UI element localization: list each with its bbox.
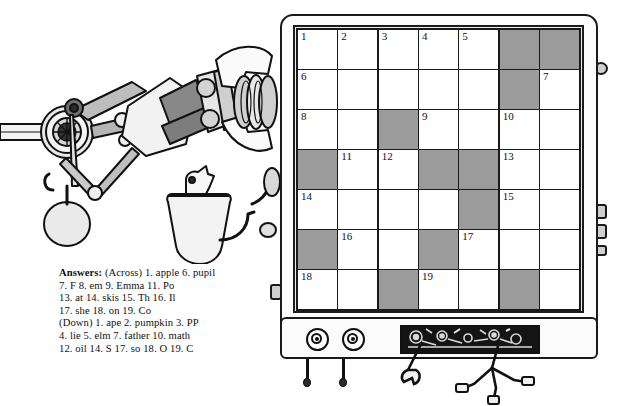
vase-body: [167, 194, 231, 264]
answers-line-5: 4. lie 5. elm 7. father 10. math: [59, 330, 271, 343]
foot-right: [339, 378, 347, 387]
cable-main: [492, 346, 498, 368]
grid-cell-number: 15: [503, 190, 514, 203]
crossword-grid[interactable]: 12345678910111213141516171819: [296, 28, 581, 311]
grid-cell[interactable]: [500, 230, 539, 269]
grid-cell[interactable]: 3: [379, 30, 418, 69]
grid-cell[interactable]: [540, 110, 579, 149]
grid-cell[interactable]: [338, 190, 377, 229]
grid-cell-number: 17: [462, 230, 473, 243]
grid-cell[interactable]: 6: [298, 70, 337, 109]
grid-cell[interactable]: [459, 70, 498, 109]
answers-line-1: 7. F 8. em 9. Emma 11. Po: [59, 280, 271, 293]
grid-cell-blocked: [500, 70, 539, 109]
control-dial-left[interactable]: [306, 328, 329, 351]
grid-cell[interactable]: 1: [298, 30, 337, 69]
grid-cell-blocked: [540, 30, 579, 69]
grid-cell[interactable]: 19: [419, 270, 458, 309]
foot-left: [303, 378, 311, 387]
grid-cell-number: 16: [341, 230, 352, 243]
grid-cell[interactable]: 10: [500, 110, 539, 149]
leg-right: [342, 359, 345, 379]
grid-cell[interactable]: 16: [338, 230, 377, 269]
hub-gear-teeth: [54, 119, 80, 145]
grid-cell-number: 1: [301, 30, 307, 43]
wrist-bolt-1: [197, 79, 215, 97]
grid-cell-number: 13: [503, 150, 514, 163]
grid-cell[interactable]: [379, 230, 418, 269]
pendant-ball: [44, 202, 90, 246]
grid-cell-blocked: [419, 150, 458, 189]
cable-branch-3: [492, 368, 526, 382]
grid-cell[interactable]: [338, 270, 377, 309]
grid-cell[interactable]: [338, 70, 377, 109]
grid-cell[interactable]: 15: [500, 190, 539, 229]
grid-cell[interactable]: 2: [338, 30, 377, 69]
grid-cell[interactable]: 12: [379, 150, 418, 189]
grid-cell[interactable]: [459, 270, 498, 309]
grid-cell-blocked: [419, 230, 458, 269]
grid-cell-number: 9: [422, 110, 428, 123]
grid-cell[interactable]: 11: [338, 150, 377, 189]
grid-cell[interactable]: 5: [459, 30, 498, 69]
cable-branch-2: [492, 368, 496, 398]
grid-cell-blocked: [379, 270, 418, 309]
grid-cell[interactable]: 9: [419, 110, 458, 149]
answers-line-2: 13. at 14. skis 15. Th 16. Il: [59, 292, 271, 305]
grid-cell-blocked: [379, 110, 418, 149]
grid-cell-blocked: [500, 270, 539, 309]
grid-cell-blocked: [298, 150, 337, 189]
grid-cell-number: 10: [503, 110, 514, 123]
leg-left: [306, 359, 309, 379]
wrench-shaft: [408, 346, 420, 370]
machine-body: 12345678910111213141516171819: [280, 14, 598, 359]
hanging-cables: [390, 346, 565, 406]
grid-cell[interactable]: 7: [540, 70, 579, 109]
grid-cell-blocked: [500, 30, 539, 69]
grid-cell[interactable]: [540, 150, 579, 189]
grid-cell[interactable]: [540, 230, 579, 269]
grid-cell[interactable]: [338, 110, 377, 149]
grid-cell-number: 4: [422, 30, 428, 43]
mechanical-arm-illustration: [0, 14, 280, 264]
lower-pivot: [88, 186, 102, 200]
grid-cell-number: 18: [301, 270, 312, 283]
hook: [45, 174, 53, 190]
grid-cell-number: 3: [382, 30, 388, 43]
illustration-svg: [0, 14, 280, 264]
grid-cell[interactable]: [419, 70, 458, 109]
grid-cell[interactable]: [540, 270, 579, 309]
grid-cell-number: 11: [341, 150, 352, 163]
grid-cell-number: 14: [301, 190, 312, 203]
grid-cell-blocked: [459, 150, 498, 189]
grid-cell-number: 19: [422, 270, 433, 283]
grid-cell[interactable]: 17: [459, 230, 498, 269]
grid-cell[interactable]: [379, 190, 418, 229]
crossword-machine: 12345678910111213141516171819: [272, 14, 620, 386]
grid-cell-blocked: [298, 230, 337, 269]
answers-line-4: (Down) 1. ape 2. pumpkin 3. PP: [59, 317, 271, 330]
grid-cell[interactable]: 4: [419, 30, 458, 69]
grid-cell-number: 7: [543, 70, 549, 83]
grid-cell[interactable]: 18: [298, 270, 337, 309]
cable-tip-3: [522, 377, 534, 385]
cable-tip-1: [456, 384, 468, 392]
grid-cell[interactable]: 14: [298, 190, 337, 229]
cable-tip-2: [488, 396, 499, 404]
grid-cell-number: 8: [301, 110, 307, 123]
grid-cell[interactable]: 8: [298, 110, 337, 149]
answers-line-3: 17. she 18. on 19. Co: [59, 305, 271, 318]
control-dial-right[interactable]: [342, 328, 365, 351]
wrench-head: [402, 370, 420, 384]
grid-cell[interactable]: 13: [500, 150, 539, 189]
grid-cell[interactable]: [419, 190, 458, 229]
answers-label: Answers:: [59, 267, 102, 278]
grid-cell[interactable]: [540, 190, 579, 229]
grid-cell[interactable]: [459, 110, 498, 149]
grid-cell-number: 2: [341, 30, 347, 43]
wrist-bolt-2: [201, 110, 219, 128]
answers-line-0: Answers: (Across) 1. apple 6. pupil: [59, 267, 271, 280]
grid-cell[interactable]: [379, 70, 418, 109]
grid-cell-number: 6: [301, 70, 307, 83]
grid-cell-number: 12: [382, 150, 393, 163]
